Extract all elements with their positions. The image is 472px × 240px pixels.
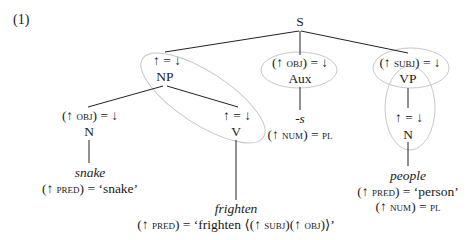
node-s: S bbox=[296, 14, 304, 29]
vp-annotation: (↑ subj) = ↓ bbox=[379, 55, 440, 70]
snake-pred-equation: (↑ pred) = ‘snake’ bbox=[42, 181, 138, 196]
v-annotation: ↑ = ↓ bbox=[223, 108, 251, 123]
word-snake: snake bbox=[75, 165, 106, 180]
aux-num-equation: (↑ num) = pl bbox=[267, 127, 332, 142]
node-aux: Aux bbox=[288, 71, 311, 86]
node-vp: VP bbox=[399, 71, 416, 86]
edge-s-np bbox=[165, 31, 299, 52]
n-obj-annotation: (↑ obj) = ↓ bbox=[62, 108, 118, 123]
edge-s-vp bbox=[301, 31, 408, 53]
edge-np-n bbox=[88, 86, 163, 107]
node-n-subj: N bbox=[403, 127, 413, 142]
frighten-pred-equation: (↑ pred) = ‘frighten ⟨(↑ subj)(↑ obj)⟩’ bbox=[137, 217, 334, 232]
aux-annotation: (↑ obj) = ↓ bbox=[272, 55, 328, 70]
aux-morpheme: -s bbox=[295, 111, 305, 126]
word-frighten: frighten bbox=[215, 201, 258, 216]
edge-np-v bbox=[167, 86, 238, 107]
people-pred-equation: (↑ pred) = ‘person’ bbox=[357, 184, 458, 199]
np-annotation: ↑ = ↓ bbox=[153, 53, 181, 68]
node-v: V bbox=[231, 124, 241, 139]
n-subj-annotation: ↑ = ↓ bbox=[395, 110, 423, 125]
people-num-equation: (↑ num) = pl bbox=[375, 199, 440, 214]
node-np: NP bbox=[156, 69, 173, 84]
np-v-highlight-ellipse bbox=[128, 37, 277, 159]
node-n-obj: N bbox=[84, 124, 94, 139]
word-people: people bbox=[390, 168, 426, 183]
example-number: (1) bbox=[13, 12, 29, 28]
